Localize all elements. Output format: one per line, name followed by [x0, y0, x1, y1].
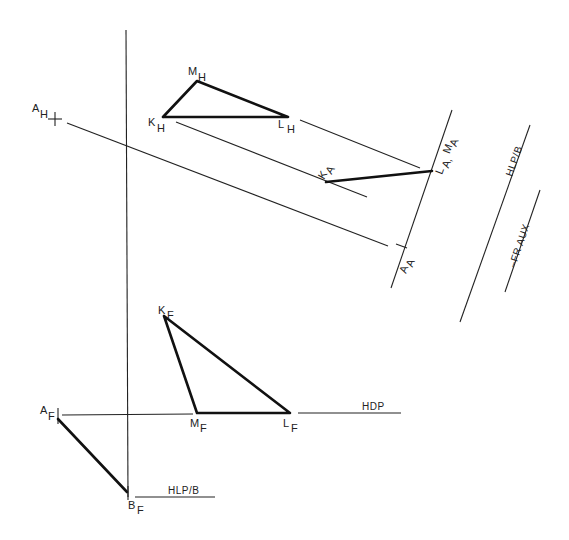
- label-a-f: A F: [40, 404, 55, 422]
- svg-text:H: H: [157, 122, 165, 134]
- svg-text:F: F: [167, 309, 174, 321]
- triangle-top-view: [163, 81, 288, 117]
- svg-text:F: F: [48, 410, 55, 422]
- label-m-f: M F: [190, 417, 207, 434]
- fold-line-h-a: [391, 110, 452, 288]
- svg-text:F: F: [200, 422, 207, 434]
- svg-text:F: F: [291, 422, 298, 434]
- diagram-canvas: A H M H K H L H K A L A , M A A A HLP/B …: [0, 0, 569, 540]
- svg-text:H: H: [287, 123, 295, 135]
- svg-text:M: M: [188, 65, 197, 77]
- label-a-a: A A: [397, 256, 418, 277]
- svg-text:L: L: [283, 417, 289, 429]
- label-fr-aux: –FR AUX: [506, 222, 531, 268]
- edge-view-kl: [326, 171, 432, 182]
- label-hlp-b-right: HLP/B: [503, 144, 524, 177]
- label-l-a-m-a: L A , M A: [433, 135, 461, 177]
- label-hdp: HDP: [362, 401, 385, 412]
- line-ab-front: [58, 419, 127, 492]
- projection-line-k: [176, 122, 367, 197]
- label-b-f: B F: [128, 499, 144, 516]
- hdp-line-left: [62, 414, 193, 415]
- svg-text:F: F: [137, 504, 144, 516]
- svg-text:K: K: [158, 304, 166, 316]
- label-l-h: L H: [278, 118, 295, 135]
- svg-text:–FR AUX: –FR AUX: [506, 222, 531, 268]
- svg-text:B: B: [128, 499, 135, 511]
- svg-text:M: M: [190, 417, 199, 429]
- svg-text:K: K: [148, 116, 156, 128]
- label-k-h: K H: [148, 116, 165, 134]
- projection-line-a: [67, 123, 388, 246]
- label-k-a: K A: [315, 161, 337, 183]
- projection-line-l: [300, 120, 420, 168]
- vertical-reference-line: [126, 30, 128, 497]
- svg-text:HLP/B: HLP/B: [503, 144, 524, 177]
- label-a-h: A H: [32, 102, 48, 120]
- label-hlp-b-bottom: HLP/B: [168, 485, 199, 496]
- svg-text:H: H: [198, 71, 206, 83]
- label-l-f: L F: [283, 417, 298, 434]
- svg-text:A: A: [32, 102, 40, 114]
- triangle-front-view: [164, 316, 290, 413]
- svg-text:H: H: [40, 108, 48, 120]
- svg-text:L: L: [278, 118, 284, 130]
- svg-text:A: A: [40, 404, 48, 416]
